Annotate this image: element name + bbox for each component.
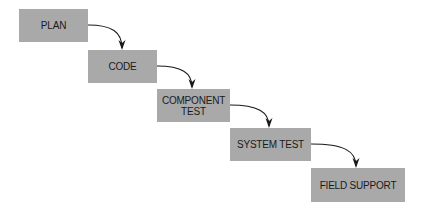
arrow-code-to-component-test	[157, 66, 196, 89]
stage-label: CODE	[108, 61, 136, 72]
stage-code: CODE	[88, 50, 157, 83]
stage-component-test: COMPONENT TEST	[157, 89, 230, 122]
stage-label-line1: COMPONENT	[162, 95, 225, 106]
stage-label: SYSTEM TEST	[237, 139, 304, 150]
stage-label-line2: TEST	[181, 106, 206, 117]
stage-label: FIELD SUPPORT	[320, 180, 397, 191]
stage-field-support: FIELD SUPPORT	[311, 168, 405, 202]
arrow-component-test-to-system-test	[230, 105, 273, 128]
arrow-system-test-to-field-support	[311, 144, 360, 168]
stage-label: PLAN	[41, 20, 66, 31]
arrow-plan-to-code	[88, 25, 126, 50]
stage-system-test: SYSTEM TEST	[230, 128, 311, 161]
waterfall-diagram: PLAN CODE COMPONENT TEST SYSTEM TEST FIE…	[0, 0, 422, 213]
stage-plan: PLAN	[19, 9, 88, 42]
